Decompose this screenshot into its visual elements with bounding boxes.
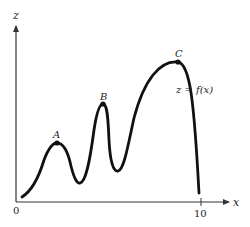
- point-b-label: B: [99, 91, 107, 102]
- origin-label: 0: [13, 205, 19, 216]
- point-b-marker: [100, 101, 105, 106]
- function-label: z = f(x): [175, 84, 213, 95]
- z-axis-label: z: [12, 9, 19, 22]
- point-a-label: A: [52, 129, 60, 140]
- point-a-marker: [54, 140, 59, 145]
- function-diagram: z x 0 10 A B C z = f(x): [0, 0, 250, 227]
- x-max-label: 10: [194, 208, 207, 219]
- point-c-marker: [175, 59, 180, 64]
- function-curve: [22, 62, 199, 197]
- x-axis-label: x: [233, 196, 240, 209]
- point-c-label: C: [175, 48, 183, 59]
